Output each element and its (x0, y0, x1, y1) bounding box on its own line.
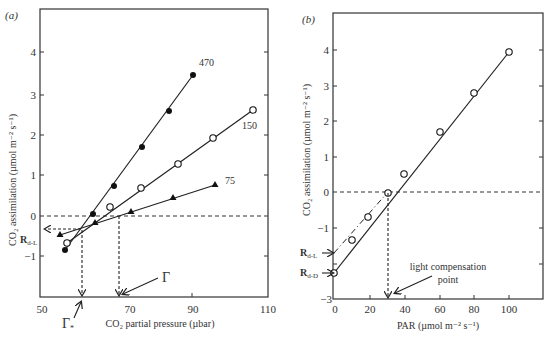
gamma-label: Γ (162, 270, 170, 285)
gamma-star-pointer-arrow (74, 302, 81, 318)
rdl-label-a: Rd-L (20, 234, 37, 247)
light-response-line (334, 52, 509, 273)
svg-text:80: 80 (469, 303, 481, 315)
panel-b-label: (b) (302, 13, 315, 26)
lcp-pointer-arrow (395, 276, 432, 293)
series-470-label: 470 (199, 57, 214, 68)
svg-text:−1: −1 (24, 250, 36, 262)
svg-text:70: 70 (125, 303, 137, 315)
figure: (a) 4 3 2 1 0 −1 50 70 90 110 CO₂ partia… (0, 0, 550, 338)
svg-text:3: 3 (324, 80, 330, 92)
svg-text:−3: −3 (320, 293, 332, 305)
panel-a-x-axis-title: CO₂ partial pressure (µbar) (106, 318, 215, 330)
gamma-pointer-arrow (123, 278, 158, 294)
panel-a-x-tick-labels: 50 70 90 110 (37, 303, 277, 315)
panel-b: (b) 4 3 2 1 0 −1 −3 0 20 40 60 80 (300, 13, 543, 332)
panel-a-y-axis-title: CO₂ assimilation (µmol m⁻² s⁻¹) (7, 114, 19, 246)
svg-text:2: 2 (324, 115, 330, 127)
svg-text:90: 90 (188, 303, 200, 315)
panel-a-y-tick-labels: 4 3 2 1 0 −1 (24, 46, 36, 262)
rdl-extrapolation-line (334, 192, 388, 253)
panel-b-x-axis-title: PAR (µmol m⁻² s⁻¹) (397, 320, 479, 332)
svg-text:20: 20 (365, 303, 377, 315)
svg-text:40: 40 (400, 303, 412, 315)
svg-text:100: 100 (501, 303, 518, 315)
panel-b-frame (333, 13, 543, 299)
panel-a-label: (a) (5, 9, 18, 22)
panel-a-frame (40, 9, 268, 297)
gamma-star-label: Γ* (62, 316, 74, 333)
svg-text:50: 50 (37, 303, 49, 315)
svg-text:0: 0 (31, 210, 37, 222)
svg-text:1: 1 (31, 169, 37, 181)
svg-text:3: 3 (31, 89, 37, 101)
panel-a: (a) 4 3 2 1 0 −1 50 70 90 110 CO₂ partia… (5, 9, 277, 333)
panel-b-x-tick-labels: 0 20 40 60 80 100 (332, 303, 518, 315)
panel-b-y-axis-title: CO₂ assimilation (µmol m⁻² s⁻¹) (301, 84, 313, 216)
series-75-label: 75 (225, 175, 235, 186)
svg-text:4: 4 (31, 46, 37, 58)
rdl-label-b: Rd-L (300, 247, 317, 260)
svg-text:1: 1 (324, 151, 330, 163)
svg-text:0: 0 (324, 186, 330, 198)
svg-text:2: 2 (31, 129, 37, 141)
rdd-label-b: Rd-D (300, 267, 318, 280)
svg-text:−1: −1 (317, 222, 329, 234)
lcp-label-line2: point (438, 274, 459, 285)
svg-text:0: 0 (332, 303, 338, 315)
series-150-label: 150 (242, 120, 257, 131)
panel-b-y-tick-labels: 4 3 2 1 0 −1 −3 (317, 44, 332, 305)
svg-text:60: 60 (435, 303, 447, 315)
svg-text:4: 4 (324, 44, 330, 56)
svg-text:110: 110 (260, 303, 277, 315)
lcp-label-line1: light compensation (410, 261, 486, 272)
series-470-line (65, 75, 193, 250)
panel-a-series-lines (60, 75, 253, 250)
